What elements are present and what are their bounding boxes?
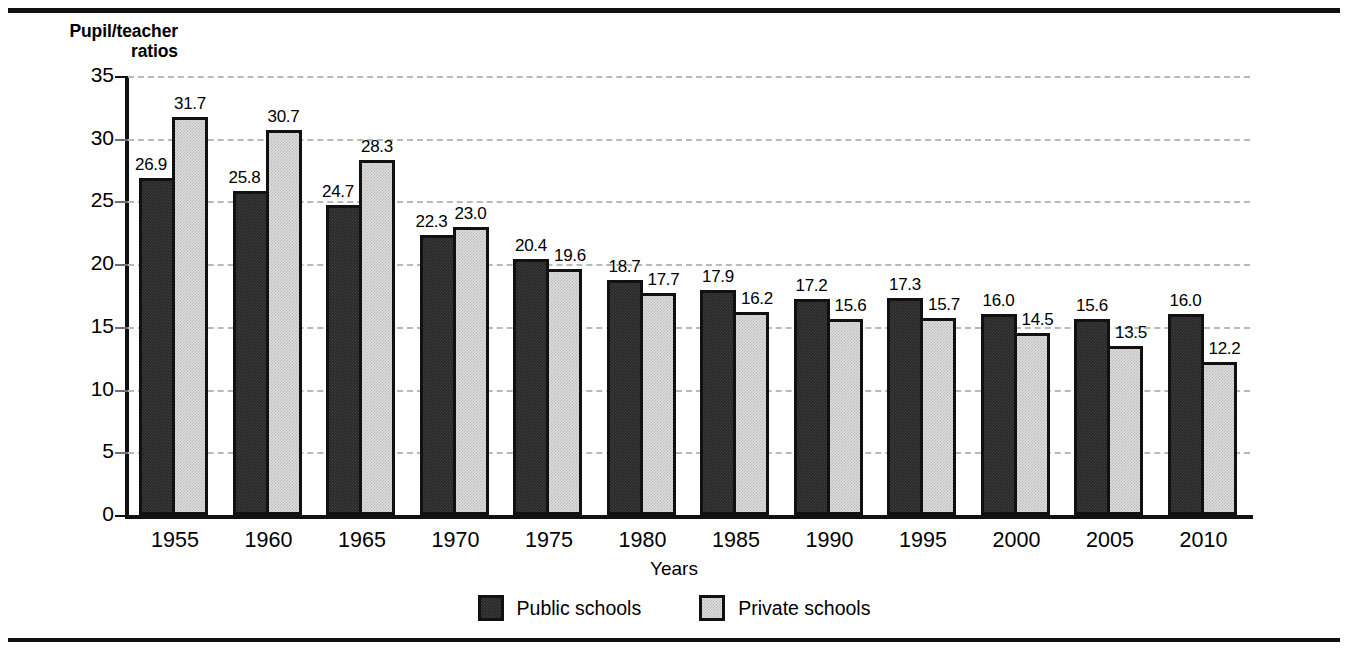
bar-private-schools[interactable] bbox=[453, 227, 489, 515]
y-axis-tick bbox=[115, 201, 128, 203]
chart-figure: Pupil/teacher ratios 26.931.725.830.724.… bbox=[0, 0, 1348, 655]
bar-private-schools[interactable] bbox=[546, 269, 582, 515]
y-axis-tick-label: 20 bbox=[48, 251, 114, 275]
x-axis-tick-label: 1975 bbox=[525, 528, 573, 553]
bar-value-label-private: 12.2 bbox=[1209, 339, 1241, 359]
bar-group bbox=[139, 76, 211, 515]
bar-public-schools[interactable] bbox=[420, 235, 456, 515]
bar-public-schools[interactable] bbox=[1074, 319, 1110, 515]
legend-swatch-private bbox=[699, 595, 725, 621]
bar-value-label-private: 30.7 bbox=[268, 107, 300, 127]
bar-value-label-public: 17.9 bbox=[702, 267, 734, 287]
bar-public-schools[interactable] bbox=[1168, 314, 1204, 515]
x-axis-line bbox=[125, 515, 1253, 519]
y-axis-tick bbox=[115, 139, 128, 141]
bar-value-label-public: 15.6 bbox=[1076, 296, 1108, 316]
bar-private-schools[interactable] bbox=[1014, 333, 1050, 515]
y-axis-tick-label: 30 bbox=[48, 126, 114, 150]
y-axis-tick-label: 15 bbox=[48, 314, 114, 338]
bar-value-label-public: 16.0 bbox=[1170, 291, 1202, 311]
y-axis-tick bbox=[115, 327, 128, 329]
x-axis-tick-label: 1990 bbox=[806, 528, 854, 553]
bar-public-schools[interactable] bbox=[981, 314, 1017, 515]
bar-private-schools[interactable] bbox=[1201, 362, 1237, 515]
bar-public-schools[interactable] bbox=[326, 205, 362, 515]
x-axis-tick-label: 1995 bbox=[899, 528, 947, 553]
bar-private-schools[interactable] bbox=[1107, 346, 1143, 515]
bar-value-label-public: 17.2 bbox=[796, 276, 828, 296]
bar-public-schools[interactable] bbox=[139, 178, 175, 515]
bar-private-schools[interactable] bbox=[640, 293, 676, 515]
bar-value-label-public: 16.0 bbox=[983, 291, 1015, 311]
bar-group bbox=[233, 76, 305, 515]
y-axis-tick bbox=[115, 515, 128, 517]
bar-value-label-private: 13.5 bbox=[1115, 323, 1147, 343]
y-axis-tick bbox=[115, 264, 128, 266]
bar-public-schools[interactable] bbox=[700, 290, 736, 515]
bar-private-schools[interactable] bbox=[827, 319, 863, 515]
figure-top-rule bbox=[8, 8, 1340, 13]
y-axis-tick bbox=[115, 452, 128, 454]
legend-label: Public schools bbox=[517, 597, 642, 620]
x-axis-tick-label: 1970 bbox=[432, 528, 480, 553]
bar-private-schools[interactable] bbox=[266, 130, 302, 515]
y-axis-tick-label: 5 bbox=[48, 439, 114, 463]
bar-public-schools[interactable] bbox=[794, 299, 830, 515]
bar-value-label-private: 17.7 bbox=[648, 270, 680, 290]
x-axis-tick-label: 2005 bbox=[1086, 528, 1134, 553]
y-axis-tick-label: 0 bbox=[48, 502, 114, 526]
bar-group bbox=[513, 76, 585, 515]
bar-value-label-public: 24.7 bbox=[322, 182, 354, 202]
bar-group bbox=[420, 76, 492, 515]
legend-swatch-public bbox=[478, 595, 504, 621]
bar-private-schools[interactable] bbox=[359, 160, 395, 515]
legend-item[interactable]: Public schools bbox=[478, 595, 642, 621]
bar-public-schools[interactable] bbox=[233, 191, 269, 515]
bar-value-label-private: 28.3 bbox=[361, 137, 393, 157]
bar-value-label-private: 19.6 bbox=[554, 246, 586, 266]
bar-value-label-public: 20.4 bbox=[515, 236, 547, 256]
y-axis-tick bbox=[115, 390, 128, 392]
bar-private-schools[interactable] bbox=[172, 117, 208, 515]
y-axis-tick-label: 25 bbox=[48, 188, 114, 212]
x-axis-title: Years bbox=[0, 558, 1348, 580]
bar-public-schools[interactable] bbox=[887, 298, 923, 515]
x-axis-tick-label: 1960 bbox=[245, 528, 293, 553]
bar-value-label-private: 23.0 bbox=[455, 204, 487, 224]
bar-group bbox=[607, 76, 679, 515]
legend-item[interactable]: Private schools bbox=[699, 595, 870, 621]
bar-value-label-public: 17.3 bbox=[889, 275, 921, 295]
bar-value-label-public: 25.8 bbox=[229, 168, 261, 188]
y-axis-tick bbox=[115, 76, 128, 78]
x-axis-tick-label: 1965 bbox=[338, 528, 386, 553]
y-axis-title: Pupil/teacher ratios bbox=[0, 21, 178, 61]
bar-value-label-public: 26.9 bbox=[135, 155, 167, 175]
bar-public-schools[interactable] bbox=[607, 280, 643, 515]
bar-private-schools[interactable] bbox=[920, 318, 956, 515]
bar-public-schools[interactable] bbox=[513, 259, 549, 515]
x-axis-tick-label: 1955 bbox=[151, 528, 199, 553]
x-axis-tick-label: 2000 bbox=[993, 528, 1041, 553]
plot-area: 26.931.725.830.724.728.322.323.020.419.6… bbox=[128, 76, 1250, 515]
x-axis-tick-label: 2010 bbox=[1180, 528, 1228, 553]
chart-legend: Public schoolsPrivate schools bbox=[0, 595, 1348, 621]
bar-value-label-private: 14.5 bbox=[1022, 310, 1054, 330]
y-axis-tick-label: 10 bbox=[48, 377, 114, 401]
figure-bottom-rule bbox=[8, 638, 1340, 642]
y-axis-tick-label: 35 bbox=[48, 63, 114, 87]
x-axis-tick-label: 1985 bbox=[712, 528, 760, 553]
bar-value-label-public: 22.3 bbox=[416, 212, 448, 232]
bar-value-label-private: 16.2 bbox=[741, 289, 773, 309]
bar-value-label-public: 18.7 bbox=[609, 257, 641, 277]
bar-value-label-private: 15.6 bbox=[835, 296, 867, 316]
x-axis-tick-label: 1980 bbox=[619, 528, 667, 553]
bar-value-label-private: 15.7 bbox=[928, 295, 960, 315]
bar-private-schools[interactable] bbox=[733, 312, 769, 515]
legend-label: Private schools bbox=[738, 597, 870, 620]
bar-value-label-private: 31.7 bbox=[174, 94, 206, 114]
